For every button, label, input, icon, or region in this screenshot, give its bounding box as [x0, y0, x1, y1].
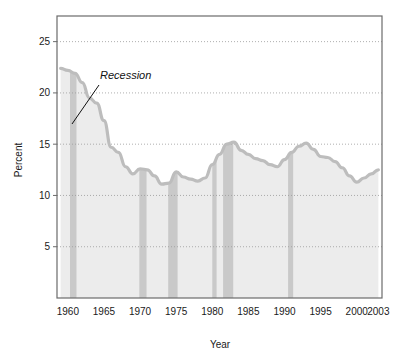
- x-tick-label: 1965: [93, 306, 116, 317]
- y-tick-label: 20: [39, 87, 51, 98]
- x-tick-labels: 1960196519701975198019851990199520002003: [57, 306, 390, 317]
- y-tick-label: 25: [39, 36, 51, 47]
- y-tick-labels: 510152025: [39, 36, 57, 252]
- x-tick-label: 1975: [165, 306, 188, 317]
- y-tick-label: 5: [44, 241, 50, 252]
- x-tick-label: 1990: [273, 306, 296, 317]
- x-tick-label: 1970: [129, 306, 152, 317]
- y-axis-title: Percent: [13, 143, 24, 178]
- chart-canvas: 510152025 196019651970197519801985199019…: [0, 0, 415, 358]
- x-tick-label: 1980: [201, 306, 224, 317]
- y-tick-label: 10: [39, 190, 51, 201]
- annotation-label: Recession: [100, 69, 151, 81]
- y-tick-label: 15: [39, 139, 51, 150]
- x-tick-label: 1995: [309, 306, 332, 317]
- x-axis-title: Year: [210, 339, 231, 350]
- x-tick-label: 2000: [346, 306, 369, 317]
- x-tick-label: 1960: [57, 306, 80, 317]
- x-tick-label: 2003: [367, 306, 390, 317]
- x-tick-label: 1985: [237, 306, 260, 317]
- chart-figure: 510152025 196019651970197519801985199019…: [0, 0, 415, 358]
